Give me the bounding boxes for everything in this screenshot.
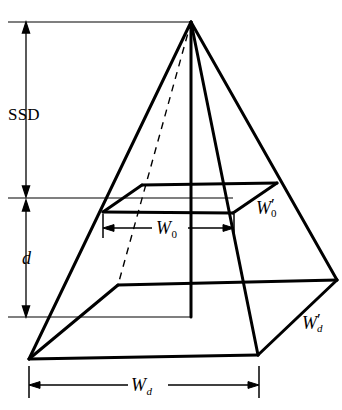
wd-label-base: W [131, 375, 146, 395]
w0-prime-label-base: W [256, 198, 271, 218]
wd-label: Wd [131, 376, 152, 397]
wd-arrowhead-left [29, 382, 40, 389]
beam-geometry-diagram: SSD d W0 W′0 W′d Wd [0, 0, 342, 410]
wd-prime-label-base: W [302, 313, 317, 333]
bottom-plane-front-edge [29, 355, 258, 359]
diagram-canvas [0, 0, 342, 410]
wd-label-subscript: d [146, 385, 152, 397]
w0-label-base: W [156, 218, 171, 238]
ssd-label: SSD [8, 106, 40, 123]
mid-plane-back-edge [142, 183, 277, 185]
mid-plane-front-edge [103, 212, 233, 213]
bottom-plane-right-edge [258, 280, 337, 355]
beam-pyramid [29, 22, 337, 359]
bottom-plane-left-edge [29, 285, 118, 359]
w0-prime-label-subscript: 0 [271, 208, 277, 219]
depth-label: d [22, 249, 31, 267]
wd-prime-label-subscript: d [317, 323, 323, 334]
wd-prime-label: W′d [302, 314, 317, 332]
depth-arrowhead-down [22, 306, 29, 317]
w0-arrowhead-left [103, 225, 114, 232]
ssd-arrowhead-up [22, 22, 29, 33]
w0-label-subscript: 0 [171, 228, 177, 240]
w0-prime-label: W′0 [256, 199, 271, 217]
wd-arrowhead-right [248, 382, 259, 389]
bottom-plane-back-edge [118, 280, 337, 285]
pyramid-edge-front-left [29, 22, 191, 359]
w0-label: W0 [156, 219, 177, 240]
ssd-arrowhead-down [22, 186, 29, 197]
pyramid-edge-front-right [191, 22, 258, 355]
pyramid-edge-back-right [191, 22, 337, 280]
depth-arrowhead-up [22, 200, 29, 211]
